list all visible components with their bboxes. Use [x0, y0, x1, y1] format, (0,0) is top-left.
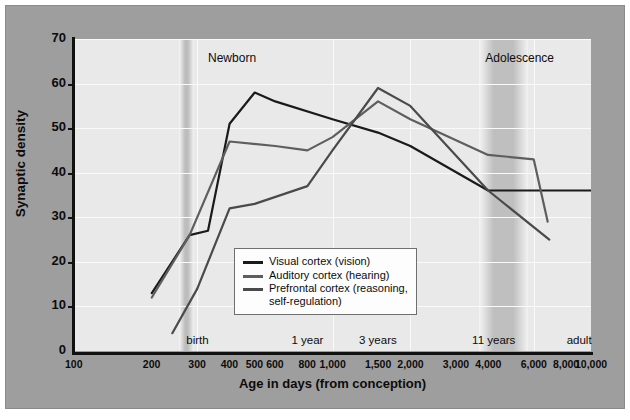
y-tick-mark — [68, 128, 73, 130]
legend-label-prefrontal-line2: self-regulation) — [269, 295, 342, 307]
y-tick-label: 20 — [6, 253, 66, 268]
x-axis-line — [72, 352, 593, 355]
y-tick-label: 50 — [6, 119, 66, 134]
legend-label-visual-cortex: Visual cortex (vision) — [269, 255, 370, 268]
y-tick-mark — [68, 262, 73, 264]
y-tick-mark — [68, 84, 73, 86]
chart-legend: Visual cortex (vision) Auditory cortex (… — [234, 248, 417, 315]
y-tick-label: 70 — [6, 30, 66, 45]
y-tick-label: 40 — [6, 164, 66, 179]
x-tick-label: 300 — [188, 358, 206, 370]
y-tick-label: 0 — [6, 342, 66, 357]
synaptic-density-chart-figure: Synaptic density Age in days (from conce… — [0, 0, 630, 420]
legend-label-prefrontal-line1: Prefrontal cortex (reasoning, — [269, 282, 408, 294]
y-tick-label: 30 — [6, 208, 66, 223]
x-tick-label: 800 — [298, 358, 316, 370]
y-tick-mark — [68, 306, 73, 308]
period-marker-3-years: 3 years — [359, 334, 397, 346]
y-tick-label: 10 — [6, 297, 66, 312]
x-tick-label: 1,500 — [365, 358, 391, 370]
y-tick-mark — [68, 173, 73, 175]
legend-swatch-prefrontal-cortex — [243, 288, 263, 291]
period-marker-1-year: 1 year — [291, 334, 323, 346]
x-tick-label: 10,000 — [575, 358, 607, 370]
x-tick-label: 400 — [221, 358, 239, 370]
x-tick-label: 600 — [266, 358, 284, 370]
x-tick-label: 100 — [65, 358, 83, 370]
x-axis-label: Age in days (from conception) — [74, 376, 591, 391]
legend-label-auditory-cortex: Auditory cortex (hearing) — [269, 269, 389, 282]
x-tick-label: 2,000 — [397, 358, 423, 370]
x-tick-label: 1,000 — [320, 358, 346, 370]
phase-label-adolescence: Adolescence — [485, 51, 554, 65]
period-marker-adult: adult — [567, 334, 592, 346]
period-marker-birth: birth — [186, 334, 208, 346]
period-marker-11-years: 11 years — [472, 334, 515, 346]
legend-item-prefrontal-cortex: Prefrontal cortex (reasoning, self-regul… — [241, 282, 408, 307]
legend-swatch-auditory-cortex — [243, 275, 263, 278]
y-tick-label: 60 — [6, 75, 66, 90]
legend-item-auditory-cortex: Auditory cortex (hearing) — [241, 269, 408, 282]
x-tick-label: 500 — [246, 358, 264, 370]
x-tick-label: 6,000 — [521, 358, 547, 370]
chart-frame: Synaptic density Age in days (from conce… — [5, 5, 625, 409]
x-tick-label: 200 — [143, 358, 161, 370]
phase-label-newborn: Newborn — [208, 51, 256, 65]
y-tick-mark — [68, 217, 73, 219]
x-tick-label: 3,000 — [443, 358, 469, 370]
legend-swatch-visual-cortex — [243, 261, 263, 264]
legend-label-prefrontal-cortex: Prefrontal cortex (reasoning, self-regul… — [269, 282, 408, 307]
x-tick-label: 4,000 — [475, 358, 501, 370]
legend-item-visual-cortex: Visual cortex (vision) — [241, 255, 408, 268]
